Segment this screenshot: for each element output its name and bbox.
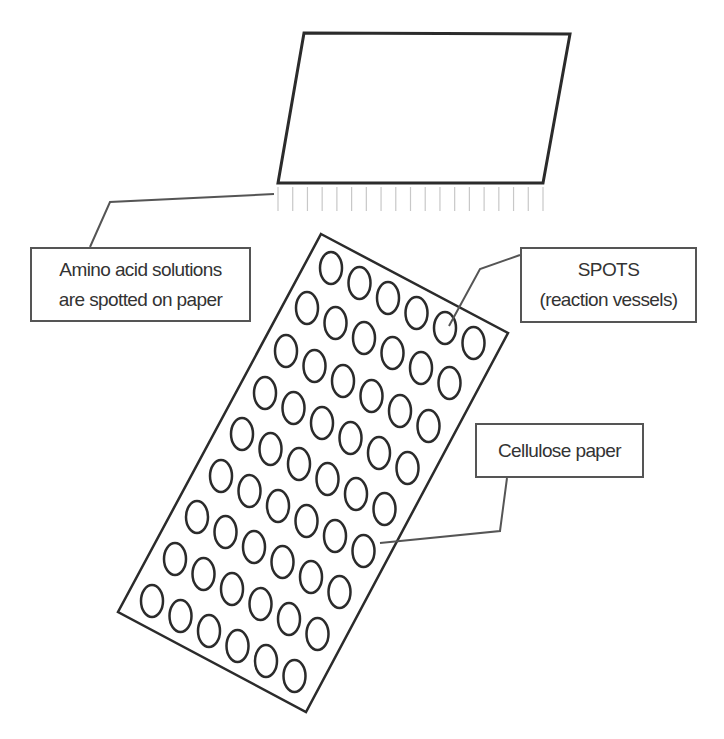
cellulose-paper-label: Cellulose paper: [475, 423, 644, 478]
label-line: Cellulose paper: [477, 436, 642, 466]
amino-acid-solutions-label: Amino acid solutions are spotted on pape…: [30, 247, 251, 322]
spots-reaction-vessels-label: SPOTS (reaction vessels): [520, 247, 697, 323]
label-line: SPOTS: [522, 255, 695, 285]
spotter-block: [278, 33, 570, 183]
spot-synthesis-diagram: [0, 0, 724, 739]
label-line: (reaction vessels): [522, 285, 695, 315]
label-line: are spotted on paper: [32, 285, 249, 315]
label-line: Amino acid solutions: [32, 255, 249, 285]
spotter-pins: [278, 187, 543, 211]
callout-line: [90, 194, 274, 247]
